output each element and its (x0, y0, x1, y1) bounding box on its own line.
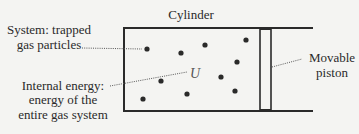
gas-particle (158, 78, 163, 83)
energy-label-line2: energy of the (29, 92, 98, 107)
gas-particle (184, 91, 189, 96)
energy-label-line1: Internal energy: (22, 78, 104, 93)
piston-label-line2: piston (316, 65, 348, 80)
cylinder-title: Cylinder (168, 7, 214, 22)
gas-particle (140, 96, 145, 101)
gas-particle (234, 59, 239, 64)
gas-particle (232, 88, 237, 93)
piston-leader-line (272, 59, 302, 67)
piston-top-cap (260, 27, 271, 30)
gas-particle (202, 42, 207, 47)
movable-piston (260, 29, 271, 111)
internal-energy-symbol: U (190, 66, 201, 81)
system-label-line2: gas particles (17, 37, 82, 52)
energy-label-line3: entire gas system (18, 107, 108, 122)
gas-particle (178, 50, 183, 55)
cylinder-diagram: Cylinder U System: trapped gas particles… (0, 0, 359, 134)
cylinder (123, 28, 313, 112)
piston-bottom-cap (260, 109, 271, 112)
gas-particle (218, 74, 223, 79)
system-leader-line (82, 48, 142, 49)
system-label-line1: System: trapped (7, 22, 92, 37)
gas-particle (243, 37, 248, 42)
gas-particle (144, 46, 149, 51)
piston-label-line1: Movable (309, 50, 355, 65)
energy-leader-line (110, 72, 187, 86)
